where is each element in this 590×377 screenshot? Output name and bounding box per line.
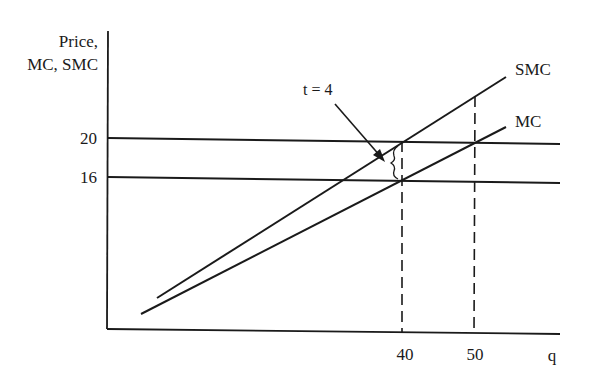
smc-curve (157, 77, 506, 298)
tax-diagram: Price, MC, SMC 20 16 40 50 q SMC MC t = … (0, 0, 590, 377)
smc-label: SMC (515, 60, 551, 79)
y-tick-20: 20 (80, 129, 97, 148)
dashed-line-q50 (474, 96, 475, 333)
y-axis (107, 31, 108, 329)
annotation-arrow (335, 104, 381, 157)
y-axis-label-line1: Price, (59, 32, 98, 51)
tax-brace (391, 146, 398, 179)
x-axis (107, 329, 560, 334)
x-tick-40: 40 (397, 345, 414, 364)
mc-curve (141, 127, 506, 314)
tax-annotation: t = 4 (303, 81, 332, 98)
x-axis-label: q (548, 346, 557, 365)
mc-label: MC (515, 112, 541, 131)
y-axis-label-line2: MC, SMC (27, 55, 98, 74)
price-line-16 (108, 177, 560, 183)
price-line-20 (108, 138, 560, 144)
x-tick-50: 50 (467, 345, 484, 364)
y-tick-16: 16 (80, 168, 97, 187)
